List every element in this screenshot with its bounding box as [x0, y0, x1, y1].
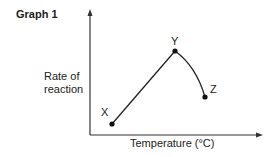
point-z-label: Z	[210, 83, 217, 95]
point-z-marker	[202, 94, 207, 99]
chart-plot	[0, 0, 278, 157]
x-axis-label: Temperature (°C)	[130, 137, 214, 149]
y-axis-arrow-icon	[88, 9, 93, 16]
curve-rising-segment	[112, 51, 175, 124]
x-axis-arrow-icon	[256, 133, 263, 138]
point-x-label: X	[101, 106, 108, 118]
curve-falling-segment	[175, 51, 205, 97]
point-y-marker	[172, 48, 177, 53]
point-x-marker	[109, 121, 114, 126]
point-y-label: Y	[171, 35, 178, 47]
